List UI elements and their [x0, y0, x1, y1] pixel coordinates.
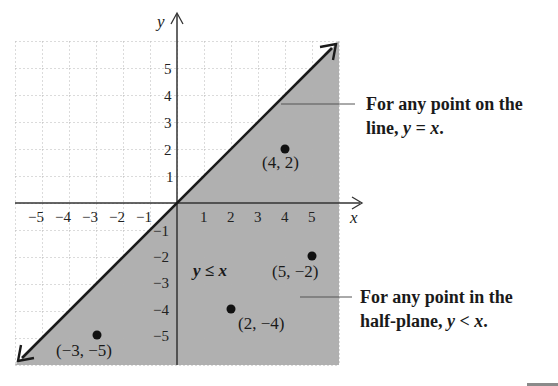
svg-text:1: 1 — [166, 169, 174, 185]
svg-text:3: 3 — [164, 115, 172, 131]
callout-on-line: For any point on the line, y = x. — [366, 92, 523, 140]
svg-text:5: 5 — [308, 209, 316, 225]
svg-text:(4, 2): (4, 2) — [262, 153, 299, 172]
svg-text:1: 1 — [200, 209, 208, 225]
svg-text:−2: −2 — [109, 209, 125, 225]
svg-text:(−3, −5): (−3, −5) — [56, 341, 112, 360]
svg-text:−1: −1 — [136, 209, 152, 225]
svg-text:(2, −4): (2, −4) — [238, 314, 284, 333]
x-axis-label: x — [349, 208, 358, 227]
callout-half-plane: For any point in the half-plane, y < x. — [360, 285, 513, 333]
svg-text:(5, −2): (5, −2) — [272, 262, 318, 281]
svg-text:−2: −2 — [153, 249, 169, 265]
svg-text:−3: −3 — [82, 209, 98, 225]
svg-text:−5: −5 — [28, 209, 44, 225]
svg-text:−4: −4 — [55, 209, 71, 225]
svg-text:−4: −4 — [153, 302, 169, 318]
svg-text:2: 2 — [227, 209, 235, 225]
svg-text:5: 5 — [164, 61, 172, 77]
region-label: y ≤ x — [191, 261, 227, 280]
svg-text:4: 4 — [164, 88, 172, 104]
svg-text:4: 4 — [281, 209, 289, 225]
svg-text:−5: −5 — [153, 328, 169, 344]
y-axis-label: y — [155, 12, 165, 31]
svg-text:2: 2 — [164, 142, 172, 158]
svg-text:3: 3 — [254, 209, 262, 225]
svg-text:−3: −3 — [153, 275, 169, 291]
